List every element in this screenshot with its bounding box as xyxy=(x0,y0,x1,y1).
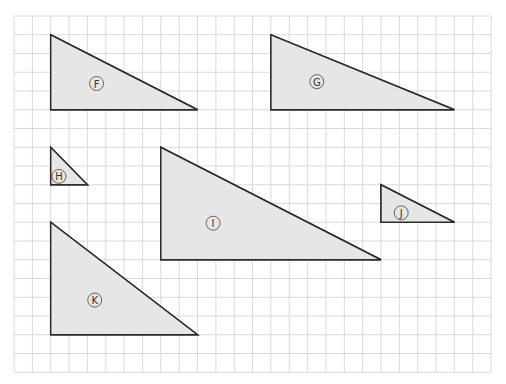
triangle-label: J xyxy=(399,208,403,219)
triangle-label: I xyxy=(212,218,215,229)
triangle-label: G xyxy=(313,77,321,88)
triangle-grid-diagram: FGHIJK xyxy=(0,0,506,384)
triangle-label: K xyxy=(91,295,98,306)
triangle-label: H xyxy=(55,171,63,182)
triangle-label: F xyxy=(94,79,100,90)
